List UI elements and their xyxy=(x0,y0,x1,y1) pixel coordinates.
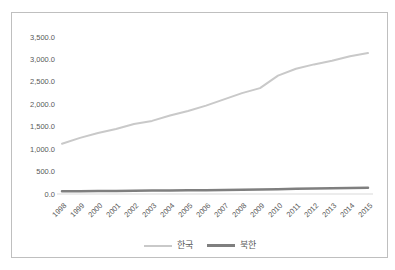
legend-item-north-korea[interactable]: 북한 xyxy=(207,241,256,250)
x-axis-tick-label: 2013 xyxy=(320,201,338,219)
series-line-north-korea xyxy=(62,188,368,192)
x-axis-tick-label: 2014 xyxy=(338,201,356,219)
line-chart: 0.0500.01,000.01,500.02,000.02,500.03,00… xyxy=(12,13,387,233)
x-axis-tick-label: 2001 xyxy=(104,201,122,219)
x-axis-tick-label: 2006 xyxy=(194,201,212,219)
x-axis-tick-label: 2003 xyxy=(140,201,158,219)
y-axis-tick-label: 0.0 xyxy=(45,190,55,199)
x-axis-tick-label: 1999 xyxy=(68,201,86,219)
x-axis-tick-label: 2012 xyxy=(302,201,320,219)
legend-line-south-korea-icon xyxy=(144,245,172,247)
x-axis: 1998199920002001200220032004200520062007… xyxy=(50,194,374,219)
y-axis-tick-label: 2,500.0 xyxy=(30,77,55,86)
y-axis-tick-label: 1,500.0 xyxy=(30,122,55,131)
legend-label-north-korea: 북한 xyxy=(240,241,256,250)
x-axis-tick-label: 2011 xyxy=(285,201,303,219)
y-axis-tick-label: 3,500.0 xyxy=(30,33,55,42)
x-axis-tick-label: 2009 xyxy=(248,201,266,219)
x-axis-tick-label: 2015 xyxy=(356,201,374,219)
x-axis-tick-label: 2005 xyxy=(176,201,194,219)
x-axis-tick-label: 1998 xyxy=(50,201,68,219)
x-axis-tick-label: 2010 xyxy=(266,201,284,219)
plot-series xyxy=(62,53,368,191)
chart-screenshot: 0.0500.01,000.01,500.02,000.02,500.03,00… xyxy=(0,0,395,270)
legend-item-south-korea[interactable]: 한국 xyxy=(144,241,193,250)
x-axis-tick-label: 2002 xyxy=(122,201,140,219)
x-axis-tick-label: 2007 xyxy=(212,201,230,219)
y-axis-tick-label: 3,000.0 xyxy=(30,55,55,64)
y-axis: 0.0500.01,000.01,500.02,000.02,500.03,00… xyxy=(30,33,55,199)
chart-legend: 한국 북한 xyxy=(12,241,387,250)
x-axis-tick-label: 2008 xyxy=(230,201,248,219)
y-axis-tick-label: 500.0 xyxy=(36,167,55,176)
legend-line-north-korea-icon xyxy=(207,244,235,247)
y-axis-tick-label: 2,000.0 xyxy=(30,100,55,109)
series-line-south-korea xyxy=(62,53,368,144)
x-axis-tick-label: 2000 xyxy=(86,201,104,219)
chart-frame: 0.0500.01,000.01,500.02,000.02,500.03,00… xyxy=(11,12,388,258)
y-axis-tick-label: 1,000.0 xyxy=(30,145,55,154)
legend-label-south-korea: 한국 xyxy=(177,241,193,250)
x-axis-tick-label: 2004 xyxy=(158,201,176,219)
